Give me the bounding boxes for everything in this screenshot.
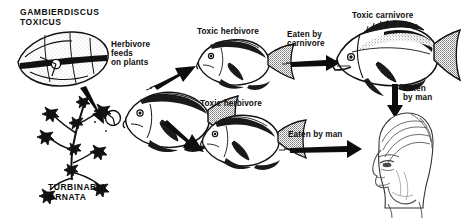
label-toxic-herbivore-lower: Toxic herbivore <box>200 99 262 108</box>
label-turbinaria-ornata: TURBINARIA ORNATA <box>48 183 106 202</box>
label-toxic-herbivore-upper: Toxic herbivore <box>197 27 259 36</box>
label-gambierdiscus-toxicus: GAMBIERDISCUS TOXICUS <box>20 8 99 27</box>
label-eaten-by-man-vertical: Eaten by man <box>403 84 432 102</box>
label-toxic-carnivore: Toxic carnivore <box>352 11 413 20</box>
label-herbivore-feeds-on-plants: Herbivore feeds on plants <box>111 40 150 68</box>
label-eaten-by-man-horizontal: Eaten by man <box>288 130 342 139</box>
label-eaten-by-carnivore: Eaten by carnivore <box>287 30 325 48</box>
